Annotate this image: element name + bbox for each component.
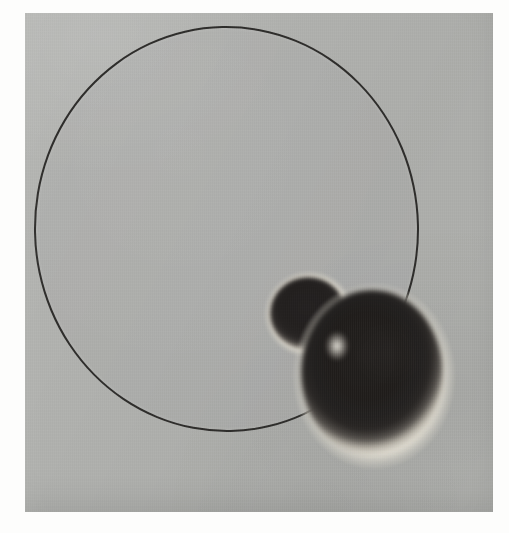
photographic-plate [25,13,493,512]
large-sphere-grain [303,293,441,453]
artwork-page [0,0,509,533]
sphere-halo-junction [325,331,349,361]
